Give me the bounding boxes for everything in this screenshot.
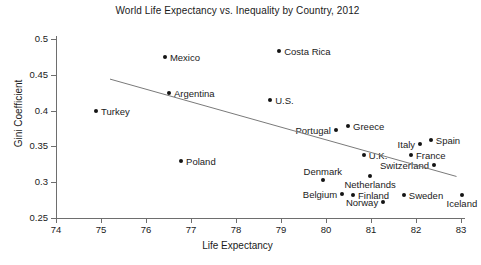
data-point-label: Costa Rica bbox=[284, 46, 330, 57]
x-tick-mark bbox=[236, 218, 237, 223]
x-tick-label: 78 bbox=[216, 224, 256, 235]
data-point-marker[interactable] bbox=[409, 153, 413, 157]
data-point-marker[interactable] bbox=[460, 193, 464, 197]
x-tick-label: 81 bbox=[351, 224, 391, 235]
x-tick-label: 80 bbox=[306, 224, 346, 235]
data-point-marker[interactable] bbox=[432, 163, 436, 167]
x-tick-label: 79 bbox=[261, 224, 301, 235]
y-tick-label-text: 0.5 bbox=[14, 33, 48, 44]
x-tick-mark bbox=[371, 218, 372, 223]
y-tick-label-text: 0.25 bbox=[14, 212, 48, 223]
data-point-label: Spain bbox=[436, 134, 460, 145]
data-point-marker[interactable] bbox=[334, 128, 338, 132]
x-tick-label: 76 bbox=[126, 224, 166, 235]
data-point-label: Poland bbox=[186, 155, 216, 166]
y-axis-title: Gini Coefficient bbox=[13, 54, 24, 174]
x-tick-mark bbox=[146, 218, 147, 223]
x-tick-label: 77 bbox=[171, 224, 211, 235]
data-point-label: Norway bbox=[346, 197, 378, 208]
y-tick-label: 0.5 bbox=[8, 33, 48, 45]
x-tick-mark bbox=[416, 218, 417, 223]
data-point-label: Switzerland bbox=[380, 160, 429, 171]
chart-title: World Life Expectancy vs. Inequality by … bbox=[0, 5, 475, 16]
data-point-marker[interactable] bbox=[368, 174, 372, 178]
y-tick-label: 0.3 bbox=[8, 176, 48, 188]
x-axis-title: Life Expectancy bbox=[0, 240, 475, 251]
data-point-marker[interactable] bbox=[402, 193, 406, 197]
y-tick-label-text: 0.3 bbox=[14, 176, 48, 187]
data-point-label: Turkey bbox=[101, 106, 130, 117]
x-tick-mark bbox=[281, 218, 282, 223]
x-tick-label: 75 bbox=[81, 224, 121, 235]
data-point-marker[interactable] bbox=[268, 98, 272, 102]
data-point-marker[interactable] bbox=[429, 138, 433, 142]
data-point-marker[interactable] bbox=[167, 91, 171, 95]
data-point-marker[interactable] bbox=[321, 178, 325, 182]
x-tick-mark bbox=[56, 218, 57, 223]
data-point-label: Portugal bbox=[296, 124, 331, 135]
data-point-marker[interactable] bbox=[346, 124, 350, 128]
data-point-label: Denmark bbox=[304, 166, 343, 177]
x-tick-label: 82 bbox=[396, 224, 436, 235]
data-point-label: Sweden bbox=[409, 190, 443, 201]
data-point-label: Italy bbox=[398, 139, 415, 150]
data-point-label: Mexico bbox=[170, 51, 200, 62]
data-point-marker[interactable] bbox=[418, 142, 422, 146]
x-tick-mark bbox=[326, 218, 327, 223]
data-point-label: Iceland bbox=[447, 198, 478, 209]
data-point-marker[interactable] bbox=[362, 153, 366, 157]
data-point-marker[interactable] bbox=[94, 109, 98, 113]
data-point-label: U.S. bbox=[275, 94, 293, 105]
y-tick-label: 0.25 bbox=[8, 212, 48, 224]
x-tick-mark bbox=[191, 218, 192, 223]
data-point-marker[interactable] bbox=[340, 192, 344, 196]
data-point-marker[interactable] bbox=[277, 49, 281, 53]
data-point-marker[interactable] bbox=[381, 200, 385, 204]
plot-area: MexicoCosta RicaArgentinaTurkeyU.S.Polan… bbox=[56, 39, 463, 218]
data-point-marker[interactable] bbox=[179, 159, 183, 163]
x-tick-label: 83 bbox=[441, 224, 481, 235]
x-axis-line bbox=[53, 218, 465, 219]
x-tick-label: 74 bbox=[36, 224, 76, 235]
data-point-label: Belgium bbox=[303, 188, 337, 199]
data-point-label: Greece bbox=[353, 121, 384, 132]
data-point-marker[interactable] bbox=[163, 55, 167, 59]
x-tick-mark bbox=[101, 218, 102, 223]
x-tick-mark bbox=[461, 218, 462, 223]
data-point-label: Argentina bbox=[174, 88, 215, 99]
